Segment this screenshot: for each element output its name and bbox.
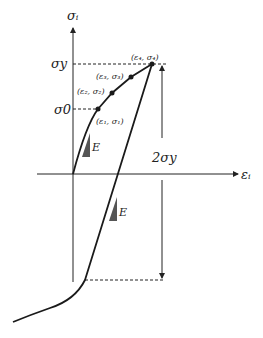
point-4 xyxy=(150,62,155,67)
slope-label-unloading: E xyxy=(118,206,127,219)
strain-axis-label: εᵢ xyxy=(241,167,251,182)
point-2-label: (ε₂, σ₂) xyxy=(77,87,105,96)
slope-label-loading: E xyxy=(91,141,100,154)
yield-label: σy xyxy=(51,56,68,71)
stress-axis-label: σᵢ xyxy=(67,8,79,23)
point-1 xyxy=(96,107,101,112)
point-2 xyxy=(110,91,115,96)
point-4-label: (ε₄, σ₄) xyxy=(131,53,159,62)
initial-label: σ0 xyxy=(54,102,71,117)
slope-triangle-icon xyxy=(82,133,90,157)
point-3-label: (ε₃, σ₃) xyxy=(96,72,124,81)
stress-strain-diagram: σᵢ εᵢ σy σ0 2σy (ε₁, σ₁) (ε₂, σ₂) (ε₃, σ… xyxy=(0,0,263,338)
point-1-label: (ε₁, σ₁) xyxy=(96,117,124,126)
point-3 xyxy=(129,75,134,80)
range-label: 2σy xyxy=(151,150,177,165)
unloading-curve xyxy=(13,64,152,322)
